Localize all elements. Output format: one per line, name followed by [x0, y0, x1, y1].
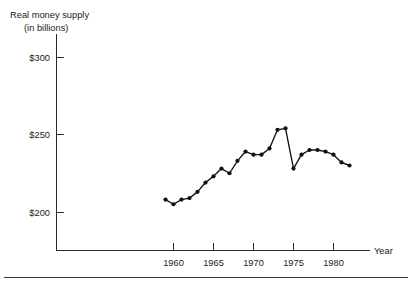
x-axis-ticks: [174, 243, 334, 251]
y-axis-tick-labels: $300 $250 $200: [29, 53, 50, 218]
chart-title-group: Real money supply (in billions): [10, 10, 89, 33]
data-series-line: [166, 128, 350, 204]
data-point: [315, 148, 319, 152]
data-point: [339, 160, 343, 164]
data-point: [299, 153, 303, 157]
data-point: [203, 180, 207, 184]
data-point: [251, 153, 255, 157]
x-tick-label-1965: 1965: [203, 258, 224, 268]
x-tick-label-1970: 1970: [243, 258, 264, 268]
x-axis-tick-labels: 1960 1965 1970 1975 1980: [163, 258, 344, 268]
x-axis-title: Year: [374, 246, 393, 256]
data-point: [283, 126, 287, 130]
x-tick-label-1980: 1980: [323, 258, 344, 268]
data-point: [163, 198, 167, 202]
data-point: [291, 167, 295, 171]
chart-figure: Real money supply (in billions) $300 $25…: [0, 0, 412, 290]
data-point: [331, 153, 335, 157]
data-point: [171, 202, 175, 206]
y-tick-label-250: $250: [29, 130, 50, 140]
data-point: [235, 159, 239, 163]
x-tick-label-1960: 1960: [163, 258, 184, 268]
data-point: [347, 163, 351, 167]
data-point: [187, 196, 191, 200]
data-point: [267, 146, 271, 150]
data-point: [211, 174, 215, 178]
data-point: [323, 149, 327, 153]
line-chart-canvas: Real money supply (in billions) $300 $25…: [0, 0, 412, 290]
x-tick-label-1975: 1975: [283, 258, 304, 268]
data-point: [195, 190, 199, 194]
data-point: [179, 198, 183, 202]
y-tick-label-300: $300: [29, 53, 50, 63]
y-axis-ticks: [57, 58, 65, 213]
data-point: [227, 171, 231, 175]
data-point: [275, 128, 279, 132]
y-tick-label-200: $200: [29, 208, 50, 218]
chart-title-line2: (in billions): [24, 23, 68, 33]
chart-title-line1: Real money supply: [10, 10, 89, 20]
data-point: [219, 167, 223, 171]
data-point: [307, 148, 311, 152]
data-point: [243, 149, 247, 153]
data-point: [259, 153, 263, 157]
data-series-markers: [163, 126, 351, 206]
